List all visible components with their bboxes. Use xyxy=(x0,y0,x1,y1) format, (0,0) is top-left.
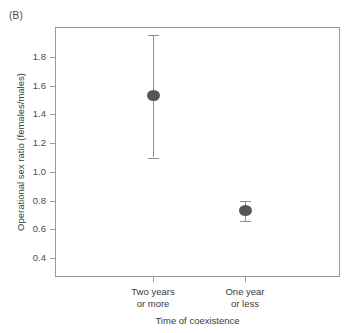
y-tick-label: 0.6 xyxy=(33,222,46,236)
plot-frame xyxy=(55,27,340,277)
y-tick-label: 1.4 xyxy=(33,107,46,121)
figure-panel-b: (B) Operational sex ratio (females/males… xyxy=(0,0,350,333)
y-tick-label: 0.4 xyxy=(33,251,46,265)
x-tick-label: One yearor less xyxy=(190,286,300,310)
y-axis-title: Operational sex ratio (females/males) xyxy=(14,27,28,277)
x-tick-mark xyxy=(153,277,154,282)
y-tick-mark xyxy=(50,86,55,87)
y-tick-label: 1.0 xyxy=(33,165,46,179)
y-tick-mark xyxy=(50,57,55,58)
x-axis-title: Time of coexistence xyxy=(55,315,340,327)
y-tick-mark xyxy=(50,172,55,173)
error-bar-cap-upper xyxy=(240,201,251,202)
y-tick-mark xyxy=(50,114,55,115)
error-bar-cap-lower xyxy=(240,221,251,222)
data-point xyxy=(147,90,160,101)
x-tick-label-line1: Two years xyxy=(131,286,174,297)
y-tick-mark xyxy=(50,229,55,230)
x-tick-label-line2: or less xyxy=(190,298,300,310)
y-tick-label: 1.8 xyxy=(33,50,46,64)
y-tick-mark xyxy=(50,143,55,144)
data-point xyxy=(239,205,252,216)
y-tick-label: 0.8 xyxy=(33,194,46,208)
y-tick-label: 1.2 xyxy=(33,136,46,150)
error-bar-cap-lower xyxy=(148,158,159,159)
x-tick-mark xyxy=(245,277,246,282)
y-tick-label: 1.6 xyxy=(33,79,46,93)
error-bar-cap-upper xyxy=(148,35,159,36)
y-tick-mark xyxy=(50,258,55,259)
panel-label: (B) xyxy=(9,10,23,21)
y-tick-mark xyxy=(50,201,55,202)
x-tick-label-line1: One year xyxy=(225,286,264,297)
